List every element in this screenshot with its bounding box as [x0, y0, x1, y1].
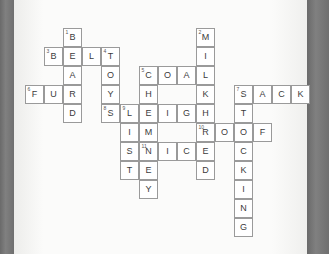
crossword-cell[interactable]: 6F: [25, 85, 44, 104]
cell-letter: E: [140, 105, 157, 122]
cell-letter: O: [102, 67, 119, 84]
crossword-cell[interactable]: I: [158, 142, 177, 161]
cell-letter: G: [178, 105, 195, 122]
crossword-cell[interactable]: 9L: [120, 104, 139, 123]
crossword-cell[interactable]: 1B: [63, 28, 82, 47]
cell-letter: M: [197, 29, 214, 46]
cell-letter: L: [121, 105, 138, 122]
crossword-cell[interactable]: E: [139, 161, 158, 180]
cell-letter: U: [45, 86, 62, 103]
cell-letter: E: [197, 143, 214, 160]
crossword-grid: 1B2M3BEL4TIAO5COAL6FURYHK7SACKD8S9LEIGHT…: [0, 0, 329, 254]
crossword-cell[interactable]: O: [215, 123, 234, 142]
crossword-cell[interactable]: 11N: [139, 142, 158, 161]
cell-letter: E: [140, 162, 157, 179]
crossword-cell[interactable]: 7S: [234, 85, 253, 104]
crossword-cell[interactable]: D: [63, 104, 82, 123]
crossword-cell[interactable]: D: [196, 161, 215, 180]
cell-letter: F: [254, 124, 271, 141]
cell-letter: N: [140, 143, 157, 160]
crossword-cell[interactable]: G: [234, 218, 253, 237]
cell-letter: O: [235, 124, 252, 141]
crossword-cell[interactable]: O: [158, 66, 177, 85]
cell-letter: L: [83, 48, 100, 65]
crossword-cell[interactable]: I: [158, 104, 177, 123]
crossword-cell[interactable]: M: [139, 123, 158, 142]
crossword-cell[interactable]: 10R: [196, 123, 215, 142]
crossword-page: 1B2M3BEL4TIAO5COAL6FURYHK7SACKD8S9LEIGHT…: [0, 0, 329, 254]
cell-letter: Y: [102, 86, 119, 103]
cell-letter: S: [121, 143, 138, 160]
crossword-cell[interactable]: I: [234, 180, 253, 199]
crossword-cell[interactable]: 8S: [101, 104, 120, 123]
crossword-cell[interactable]: K: [196, 85, 215, 104]
cell-letter: I: [197, 48, 214, 65]
crossword-cell[interactable]: A: [177, 66, 196, 85]
cell-letter: I: [235, 181, 252, 198]
cell-letter: H: [197, 105, 214, 122]
crossword-cell[interactable]: C: [234, 142, 253, 161]
cell-letter: R: [64, 86, 81, 103]
cell-letter: A: [178, 67, 195, 84]
cell-letter: B: [45, 48, 62, 65]
crossword-cell[interactable]: L: [82, 47, 101, 66]
crossword-cell[interactable]: T: [120, 161, 139, 180]
crossword-cell[interactable]: A: [63, 66, 82, 85]
crossword-cell[interactable]: R: [63, 85, 82, 104]
crossword-cell[interactable]: K: [291, 85, 310, 104]
cell-letter: D: [64, 105, 81, 122]
cell-letter: K: [197, 86, 214, 103]
crossword-cell[interactable]: E: [196, 142, 215, 161]
crossword-cell[interactable]: O: [101, 66, 120, 85]
cell-letter: I: [159, 105, 176, 122]
crossword-cell[interactable]: 5C: [139, 66, 158, 85]
cell-letter: B: [64, 29, 81, 46]
cell-letter: K: [292, 86, 309, 103]
crossword-cell[interactable]: L: [196, 66, 215, 85]
cell-letter: O: [159, 67, 176, 84]
crossword-cell[interactable]: U: [44, 85, 63, 104]
cell-letter: T: [102, 48, 119, 65]
cell-letter: T: [121, 162, 138, 179]
crossword-cell[interactable]: Y: [139, 180, 158, 199]
crossword-cell[interactable]: A: [253, 85, 272, 104]
cell-letter: S: [235, 86, 252, 103]
crossword-cell[interactable]: K: [234, 161, 253, 180]
crossword-cell[interactable]: 2M: [196, 28, 215, 47]
crossword-cell[interactable]: O: [234, 123, 253, 142]
cell-letter: M: [140, 124, 157, 141]
crossword-cell[interactable]: G: [177, 104, 196, 123]
cell-letter: L: [197, 67, 214, 84]
cell-letter: H: [140, 86, 157, 103]
crossword-cell[interactable]: S: [120, 142, 139, 161]
crossword-cell[interactable]: N: [234, 199, 253, 218]
crossword-cell[interactable]: E: [139, 104, 158, 123]
crossword-cell[interactable]: H: [196, 104, 215, 123]
cell-letter: R: [197, 124, 214, 141]
cell-letter: Y: [140, 181, 157, 198]
cell-letter: T: [235, 105, 252, 122]
cell-letter: A: [64, 67, 81, 84]
crossword-cell[interactable]: T: [234, 104, 253, 123]
crossword-cell[interactable]: C: [177, 142, 196, 161]
crossword-cell[interactable]: Y: [101, 85, 120, 104]
cell-letter: I: [121, 124, 138, 141]
cell-letter: K: [235, 162, 252, 179]
crossword-cell[interactable]: C: [272, 85, 291, 104]
crossword-cell[interactable]: 4T: [101, 47, 120, 66]
cell-letter: C: [178, 143, 195, 160]
cell-letter: S: [102, 105, 119, 122]
cell-letter: C: [273, 86, 290, 103]
cell-letter: D: [197, 162, 214, 179]
crossword-cell[interactable]: H: [139, 85, 158, 104]
cell-letter: O: [216, 124, 233, 141]
crossword-cell[interactable]: I: [196, 47, 215, 66]
cell-letter: E: [64, 48, 81, 65]
crossword-cell[interactable]: F: [253, 123, 272, 142]
crossword-cell[interactable]: E: [63, 47, 82, 66]
crossword-cell[interactable]: I: [120, 123, 139, 142]
crossword-cell[interactable]: 3B: [44, 47, 63, 66]
cell-letter: G: [235, 219, 252, 236]
cell-letter: N: [235, 200, 252, 217]
cell-letter: I: [159, 143, 176, 160]
